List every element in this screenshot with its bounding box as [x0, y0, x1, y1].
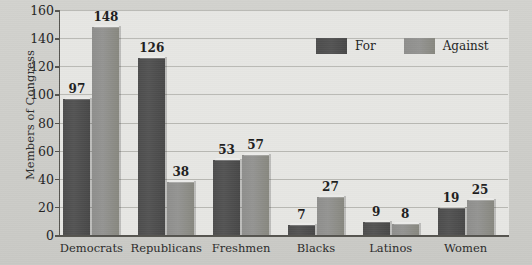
bar-democrats-against — [92, 27, 119, 235]
bar-bevel-right — [419, 223, 421, 235]
legend-label: For — [355, 39, 376, 53]
bar-women-against — [467, 200, 494, 235]
bar-fill — [242, 155, 269, 235]
bar-fill — [363, 222, 390, 235]
gridline — [59, 123, 508, 124]
legend-item-for: For — [316, 38, 376, 54]
bar-women-for — [438, 208, 465, 235]
x-axis-category-label: Blacks — [297, 241, 335, 255]
bar-fill — [438, 208, 465, 235]
bar-value-label: 148 — [93, 10, 118, 24]
bar-value-label: 9 — [372, 205, 380, 219]
gridline — [59, 10, 508, 11]
bar-bevel-top — [319, 195, 344, 198]
bar-value-label: 38 — [172, 165, 189, 179]
y-axis-tick-mark — [55, 66, 60, 68]
bar-republicans-for — [138, 58, 165, 235]
bar-fill — [392, 224, 419, 235]
bar-bevel-top — [169, 180, 194, 183]
y-axis-tick-mark — [55, 94, 60, 96]
y-axis-tick-label: 0 — [8, 228, 54, 243]
gridline — [59, 179, 508, 180]
gridline — [59, 94, 508, 95]
bar-fill — [138, 58, 165, 235]
bar-chart: 020406080100120140160 Members of Congres… — [0, 0, 532, 265]
bar-blacks-for — [288, 225, 315, 235]
x-axis-category-label: Freshmen — [212, 241, 271, 255]
bar-value-label: 19 — [443, 191, 460, 205]
legend-item-against: Against — [404, 38, 489, 54]
bar-value-label: 97 — [69, 82, 86, 96]
bar-bevel-right — [119, 26, 121, 235]
bar-value-label: 27 — [322, 180, 339, 194]
bar-fill — [213, 160, 240, 235]
bar-bevel-right — [494, 199, 496, 235]
bar-bevel-top — [365, 220, 390, 223]
legend-label: Against — [443, 39, 489, 53]
y-axis-tick-mark — [55, 123, 60, 125]
bar-democrats-for — [63, 99, 90, 235]
bar-bevel-top — [394, 222, 419, 225]
bar-bevel-top — [140, 56, 165, 59]
bar-bevel-top — [440, 206, 465, 209]
gridline — [59, 66, 508, 67]
bar-value-label: 57 — [247, 138, 264, 152]
legend-swatch-for — [316, 38, 347, 54]
bar-fill — [467, 200, 494, 235]
x-axis-category-label: Democrats — [60, 241, 123, 255]
bar-bevel-top — [244, 153, 269, 156]
y-axis-tick-mark — [55, 38, 60, 40]
gridline — [59, 151, 508, 152]
bar-value-label: 25 — [472, 183, 489, 197]
bar-bevel-right — [194, 181, 196, 235]
bar-latinos-for — [363, 222, 390, 235]
x-axis-category-label: Republicans — [130, 241, 202, 255]
bar-republicans-against — [167, 182, 194, 235]
y-axis-title: Members of Congress — [23, 30, 37, 200]
bar-fill — [317, 197, 344, 235]
bar-freshmen-against — [242, 155, 269, 235]
legend-swatch-against — [404, 38, 435, 54]
bar-fill — [63, 99, 90, 235]
y-axis-tick-mark — [55, 235, 60, 237]
y-axis-tick-label: 20 — [8, 199, 54, 214]
bar-bevel-top — [290, 223, 315, 226]
bar-bevel-right — [269, 154, 271, 235]
x-axis-line — [59, 235, 509, 237]
bar-freshmen-for — [213, 160, 240, 235]
bar-blacks-against — [317, 197, 344, 235]
y-axis-tick-mark — [55, 179, 60, 181]
y-axis-tick-mark — [55, 10, 60, 12]
bar-fill — [288, 225, 315, 235]
bar-value-label: 53 — [218, 143, 235, 157]
bar-fill — [92, 27, 119, 235]
bar-bevel-right — [344, 196, 346, 235]
bar-bevel-top — [65, 97, 90, 100]
bar-fill — [167, 182, 194, 235]
bar-value-label: 8 — [401, 207, 409, 221]
bar-value-label: 7 — [297, 208, 305, 222]
y-axis-tick-mark — [55, 151, 60, 153]
bar-bevel-top — [469, 198, 494, 201]
legend: ForAgainst — [316, 38, 489, 54]
bar-value-label: 126 — [139, 41, 164, 55]
y-axis-tick-label: 160 — [8, 3, 54, 18]
bar-bevel-top — [94, 25, 119, 28]
y-axis-tick-mark — [55, 207, 60, 209]
x-axis-category-label: Latinos — [369, 241, 412, 255]
x-axis-category-label: Women — [444, 241, 487, 255]
bar-latinos-against — [392, 224, 419, 235]
